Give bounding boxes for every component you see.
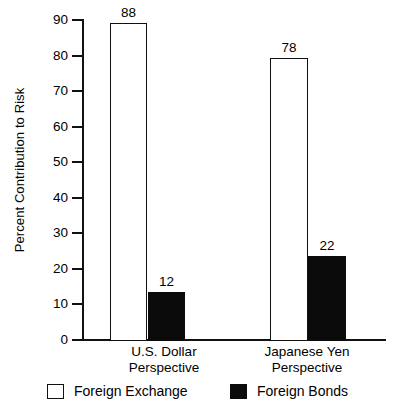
legend-swatch-filled	[230, 384, 247, 399]
bar-value-label: 88	[92, 6, 165, 20]
y-axis-line	[82, 19, 84, 341]
y-axis-tick	[72, 339, 83, 341]
x-axis-category-label-line: Japanese Yen	[227, 344, 387, 360]
y-axis-tick	[72, 19, 83, 21]
y-axis-tick-label: 50	[32, 155, 68, 169]
y-axis-tick	[72, 268, 83, 270]
legend-swatch-open	[47, 384, 64, 399]
legend-label: Foreign Exchange	[74, 384, 188, 398]
y-axis-tick-label: 80	[32, 49, 68, 63]
x-axis-category-label-line: Perspective	[84, 360, 244, 376]
y-axis-tick	[72, 161, 83, 163]
x-axis-category-label-line: U.S. Dollar	[84, 344, 244, 360]
x-axis-category-label: U.S. DollarPerspective	[84, 344, 244, 375]
y-axis-tick	[72, 197, 83, 199]
bar-foreign-exchange-1	[270, 58, 308, 341]
legend-label: Foreign Bonds	[257, 384, 348, 398]
y-axis-tick-label: 0	[32, 333, 68, 347]
bar-foreign-bonds-1	[308, 256, 346, 341]
y-axis-tick-label: 30	[32, 227, 68, 241]
y-axis-tick	[72, 126, 83, 128]
y-axis-tick-label: 90	[32, 13, 68, 27]
bar-value-label: 22	[290, 239, 364, 253]
legend-item-foreign-exchange[interactable]: Foreign Exchange	[47, 380, 188, 402]
x-axis-category-label: Japanese YenPerspective	[227, 344, 387, 375]
y-axis-tick-label: 20	[32, 262, 68, 276]
bar-foreign-bonds-0	[148, 292, 185, 341]
chart-legend: Foreign ExchangeForeign Bonds	[0, 380, 412, 404]
bar-value-label: 12	[130, 275, 203, 289]
y-axis-tick-label: 10	[32, 298, 68, 312]
bar-chart: Percent Contribution to Risk 01020304050…	[0, 0, 412, 408]
y-axis-tick	[72, 90, 83, 92]
legend-item-foreign-bonds[interactable]: Foreign Bonds	[230, 380, 348, 402]
y-axis-tick-label: 40	[32, 191, 68, 205]
y-axis-tick-label: 70	[32, 84, 68, 98]
y-axis-tick	[72, 303, 83, 305]
y-axis-tick	[72, 55, 83, 57]
y-axis-title: Percent Contribution to Risk	[6, 0, 32, 340]
x-axis-category-label-line: Perspective	[227, 360, 387, 376]
bar-foreign-exchange-0	[110, 23, 147, 341]
y-axis-tick-label: 60	[32, 120, 68, 134]
bar-value-label: 78	[252, 41, 326, 55]
y-axis-tick	[72, 232, 83, 234]
